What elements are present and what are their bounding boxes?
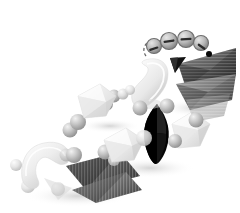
sphere [189, 113, 204, 128]
bead-disc [147, 39, 162, 54]
sphere [10, 159, 22, 171]
sphere [160, 99, 175, 114]
sphere [133, 101, 148, 116]
small-black-sphere [206, 51, 212, 57]
sphere [125, 85, 135, 95]
abstract-3d-composition [0, 0, 240, 213]
sphere [66, 147, 82, 163]
sphere [136, 130, 152, 146]
artwork-canvas: Grayscale 3D Abstract Composition diagon… [0, 0, 240, 213]
bead-disc [161, 33, 178, 50]
bead-disc [194, 36, 209, 51]
bead-disc [178, 31, 195, 48]
sphere [168, 134, 182, 148]
